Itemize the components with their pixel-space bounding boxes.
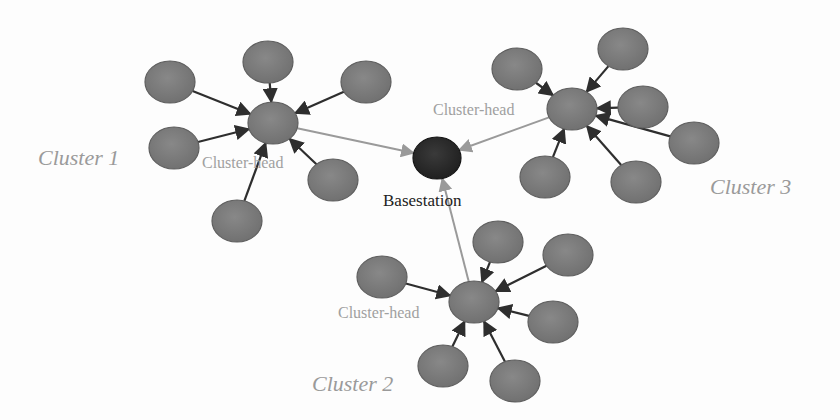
basestation-label: Basestation — [383, 191, 462, 210]
member-arrow — [484, 321, 505, 361]
member-arrow — [495, 266, 546, 292]
member-arrow — [244, 143, 265, 201]
sensor-node — [611, 161, 661, 203]
member-arrow — [270, 83, 272, 102]
member-arrow — [587, 126, 621, 165]
sensor-node — [357, 256, 407, 298]
sensor-node — [543, 234, 593, 276]
sensor-node — [418, 345, 468, 387]
member-arrow — [198, 129, 249, 142]
head-to-basestation-arrow — [459, 117, 549, 150]
cluster-3-label: Cluster 3 — [710, 174, 791, 199]
basestation-node — [413, 137, 461, 179]
sensor-node — [492, 48, 542, 90]
cluster-head-node — [248, 102, 298, 144]
cluster-1-head-label: Cluster-head — [202, 154, 283, 171]
sensor-node — [618, 86, 668, 128]
sensor-node — [149, 127, 199, 169]
sensor-node — [490, 360, 540, 402]
member-arrow — [290, 139, 317, 165]
member-arrow — [498, 308, 529, 316]
sensor-node — [308, 159, 358, 201]
sensor-node — [520, 156, 570, 198]
diagram-svg: Basestation Cluster-head Cluster-head Cl… — [0, 0, 840, 420]
member-arrow — [597, 108, 618, 109]
head-to-basestation-arrow — [297, 128, 413, 153]
member-arrow — [452, 321, 464, 346]
cluster-2-head-label: Cluster-head — [338, 304, 419, 321]
member-arrow — [193, 91, 251, 114]
sensor-node — [341, 61, 391, 103]
member-arrow — [587, 66, 609, 92]
sensor-node — [145, 61, 195, 103]
sensor-node — [528, 301, 578, 343]
member-arrow — [482, 262, 490, 282]
sensor-node — [598, 28, 648, 70]
cluster-head-node — [449, 281, 499, 323]
cluster-3-head-label: Cluster-head — [433, 101, 514, 118]
sensor-node — [243, 41, 293, 83]
sensor-node — [669, 122, 719, 164]
member-arrow — [295, 92, 344, 113]
sensor-node — [212, 200, 262, 242]
sensor-node — [473, 221, 523, 263]
cluster-head-node — [547, 88, 597, 130]
member-arrow — [536, 83, 553, 96]
member-arrow — [406, 283, 450, 295]
nodes-layer — [145, 28, 719, 402]
cluster-network-diagram: Basestation Cluster-head Cluster-head Cl… — [0, 0, 840, 420]
cluster-1-label: Cluster 1 — [38, 145, 119, 170]
member-arrow — [553, 129, 564, 157]
cluster-2-label: Cluster 2 — [312, 371, 393, 396]
